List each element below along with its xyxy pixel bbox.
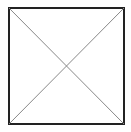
square-diagram bbox=[0, 0, 131, 132]
